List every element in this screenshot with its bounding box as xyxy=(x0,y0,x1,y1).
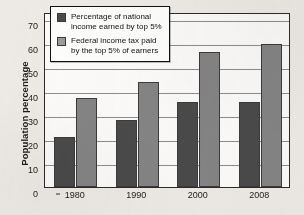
legend-item: Percentage of national income earned by … xyxy=(57,12,162,32)
bar xyxy=(199,52,220,187)
bar xyxy=(261,44,282,187)
bar xyxy=(116,120,137,187)
y-axis-tick-label: 70 xyxy=(16,21,38,31)
x-axis-tick-labels: 1980199020002008 xyxy=(44,190,290,204)
y-axis-tick-label: 30 xyxy=(16,117,38,127)
y-axis-tick-labels: 010203040506070 xyxy=(16,16,38,188)
y-axis-tick-label: 60 xyxy=(16,45,38,55)
y-axis-tick-label: 10 xyxy=(16,165,38,175)
x-axis-tick-label: 2000 xyxy=(176,190,220,200)
bar xyxy=(177,102,198,187)
y-axis-tick-label: 50 xyxy=(16,69,38,79)
bar xyxy=(239,102,260,187)
chart-legend: Percentage of national income earned by … xyxy=(50,6,170,62)
x-axis-tick-label: 1980 xyxy=(53,190,97,200)
bar-group xyxy=(177,14,220,187)
y-axis-tick-label: 0 xyxy=(16,189,38,199)
bar-chart-figure: Population percentage 010203040506070 19… xyxy=(0,0,304,215)
bar xyxy=(138,82,159,187)
x-axis-tick-label: 1990 xyxy=(114,190,158,200)
legend-item-label: Federal income tax paid by the top 5% of… xyxy=(71,36,158,56)
bar-group xyxy=(239,14,282,187)
y-axis-tick-label: 40 xyxy=(16,93,38,103)
legend-swatch-icon xyxy=(57,37,66,46)
y-axis-tick-label: 20 xyxy=(16,141,38,151)
bar xyxy=(54,137,75,187)
legend-item: Federal income tax paid by the top 5% of… xyxy=(57,36,162,56)
legend-swatch-icon xyxy=(57,13,66,22)
bar xyxy=(76,98,97,187)
x-axis-tick-label: 2008 xyxy=(237,190,281,200)
legend-item-label: Percentage of national income earned by … xyxy=(71,12,162,32)
